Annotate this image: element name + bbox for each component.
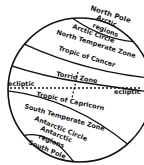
label-torrid: Torrid Zone bbox=[56, 70, 99, 85]
climate-zones-diagram: North Pole Arctic regions Arctic Circle … bbox=[0, 0, 144, 165]
svg-text:Torrid Zone: Torrid Zone bbox=[56, 70, 99, 85]
svg-text:ecliptic: ecliptic bbox=[114, 88, 141, 96]
label-ecliptic-right: ecliptic bbox=[114, 88, 141, 96]
label-ecliptic-left: ecliptic bbox=[8, 80, 35, 88]
svg-text:ecliptic: ecliptic bbox=[8, 80, 35, 88]
